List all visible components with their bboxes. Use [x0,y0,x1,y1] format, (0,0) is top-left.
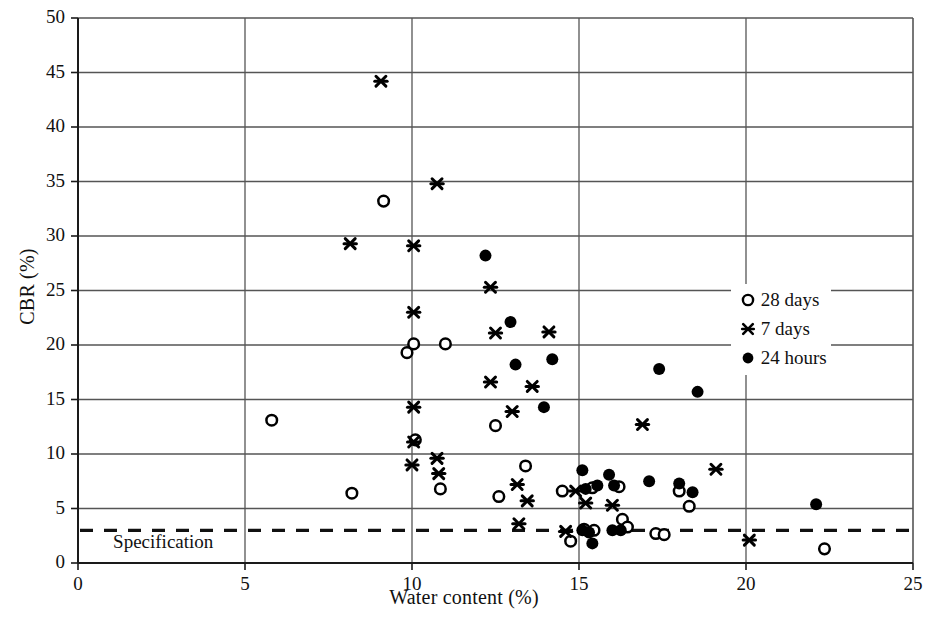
specification-annotation-label: Specification [113,531,213,553]
data-point-24-hours [538,401,550,413]
legend-label-28-days: 28 days [761,289,820,311]
open-circle-icon [735,291,761,309]
data-point-28-days [819,544,830,555]
data-point-28-days [684,501,695,512]
y-tick-label: 50 [19,6,65,28]
y-tick-label: 25 [19,279,65,301]
data-point-28-days [266,415,277,426]
filled-circle-icon [735,349,761,367]
legend-item-24-hours: 24 hours [735,344,827,373]
cbr-vs-water-content-scatter-chart: CBR (%) Water content (%) Specification … [0,0,928,617]
x-tick-label: 5 [222,573,268,595]
data-point-7-days [433,469,445,479]
series-7-days [344,76,756,545]
data-point-24-hours [546,353,558,365]
data-point-7-days [489,328,501,338]
data-point-28-days [440,339,451,350]
data-point-24-hours [687,486,699,498]
x-tick-label: 25 [890,573,928,595]
data-point-7-days [710,464,722,474]
data-point-28-days [557,486,568,497]
y-tick-label: 0 [19,551,65,573]
legend-label-7-days: 7 days [761,318,810,340]
y-tick-label: 10 [19,442,65,464]
x-tick-label: 0 [55,573,101,595]
data-point-24-hours [583,526,595,538]
data-point-7-days [407,402,419,412]
data-point-24-hours [586,537,598,549]
y-tick-label: 15 [19,388,65,410]
data-point-24-hours [810,498,822,510]
data-point-7-days [344,239,356,249]
data-point-24-hours [510,359,522,371]
data-point-24-hours [576,464,588,476]
data-point-24-hours [603,469,615,481]
data-point-24-hours [653,363,665,375]
data-point-24-hours [673,477,685,489]
data-point-7-days [543,327,555,337]
data-point-24-hours [643,475,655,487]
data-point-24-hours [505,316,517,328]
x-tick-label: 15 [556,573,602,595]
data-point-24-hours [591,480,603,492]
data-point-7-days [484,377,496,387]
data-point-7-days [559,526,571,536]
x-tick-label: 20 [723,573,769,595]
data-point-7-days [407,307,419,317]
data-point-7-days [506,407,518,417]
data-point-28-days [494,491,505,502]
data-point-7-days [431,453,443,463]
y-tick-label: 35 [19,170,65,192]
data-point-7-days [431,179,443,189]
data-point-7-days [521,496,533,506]
star-cross-icon [735,320,761,338]
data-point-7-days [579,498,591,508]
y-tick-label: 40 [19,115,65,137]
data-point-28-days [520,461,531,472]
legend-item-7-days: 7 days [735,315,827,344]
data-point-7-days [513,519,525,529]
data-point-28-days [408,339,419,350]
data-point-7-days [743,535,755,545]
data-point-28-days [659,529,670,540]
y-tick-label: 5 [19,497,65,519]
data-point-24-hours [608,480,620,492]
data-point-7-days [407,241,419,251]
data-point-28-days [347,488,358,499]
data-point-28-days [435,484,446,495]
y-tick-label: 45 [19,61,65,83]
data-point-28-days [378,196,389,207]
data-point-28-days [490,420,501,431]
data-point-7-days [636,420,648,430]
data-point-24-hours [580,483,592,495]
data-point-7-days [511,480,523,490]
legend-item-28-days: 28 days [735,286,827,315]
data-point-7-days [526,381,538,391]
y-tick-label: 30 [19,224,65,246]
x-tick-label: 10 [389,573,435,595]
x-axis-title: Water content (%) [0,586,928,609]
y-tick-label: 20 [19,333,65,355]
data-point-24-hours [692,386,704,398]
data-point-7-days [375,76,387,86]
chart-legend: 28 days 7 days 24 hours [731,284,831,375]
series-28-days [266,196,829,554]
data-point-24-hours [615,524,627,536]
data-point-24-hours [479,250,491,262]
legend-label-24-hours: 24 hours [761,347,827,369]
